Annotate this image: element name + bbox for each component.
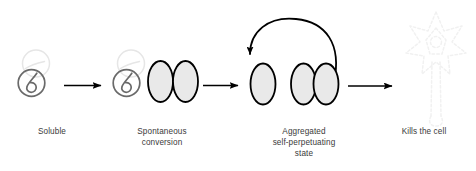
aggregated-state-icon: [250, 19, 339, 105]
prion-pathway-figure: Soluble Spontaneous conversion Aggregate…: [0, 0, 476, 171]
aggregate-ellipse-pair: [291, 64, 339, 105]
neuron-icon: [406, 12, 466, 126]
stage-label-spontaneous-conversion: Spontaneous conversion: [104, 126, 220, 148]
soluble-prion-icon: [18, 50, 49, 96]
aggregate-ellipse-single: [251, 64, 276, 105]
stage-label-aggregated-state: Aggregated self-perpetuating state: [238, 126, 370, 159]
spontaneous-conversion-icon: [113, 50, 198, 102]
prion-spiral-icon: [18, 70, 45, 97]
prion-spiral-icon-2: [113, 70, 140, 97]
stage-label-kills-the-cell: Kills the cell: [372, 126, 476, 137]
stage-label-soluble: Soluble: [0, 126, 104, 137]
converted-ellipse-pair-icon: [148, 61, 198, 102]
